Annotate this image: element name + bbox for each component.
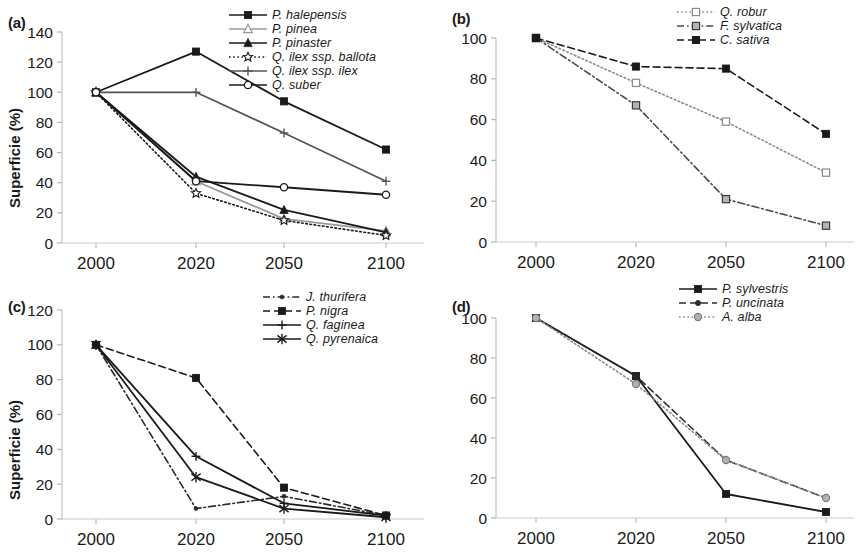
- panel-b-x-tick-2000: 2000: [517, 253, 555, 272]
- panel-d-series-0: [532, 314, 829, 515]
- legend-item-q-suber: Q. suber: [228, 78, 376, 92]
- legend-key-open-triangle: [228, 22, 268, 36]
- legend-key-dot: [262, 290, 302, 304]
- legend-item-q-ilex-ssp-ilex: Q. ilex ssp. ilex: [228, 64, 376, 78]
- panel-a-x-tick-2020: 2020: [177, 254, 215, 273]
- panel-b-x-tick-2020: 2020: [617, 253, 655, 272]
- legend-item-p-pinaster: P. pinaster: [228, 36, 376, 50]
- panel-d-y-tick-40: 40: [470, 430, 488, 447]
- panel-b-x-tick-2100: 2100: [807, 253, 845, 272]
- legend-marker-icon: [678, 296, 718, 310]
- legend-item-f-sylvatica: F. sylvatica: [676, 19, 782, 33]
- panel-c-y-tick-40: 40: [36, 441, 54, 458]
- panel-a-y-tick-80: 80: [36, 114, 54, 131]
- legend-marker-icon: [228, 22, 268, 36]
- panel-a-y-tick-20: 20: [36, 204, 54, 221]
- panel-c-series-0: [94, 343, 388, 518]
- legend-item-a-alba: A. alba: [678, 310, 788, 324]
- legend-item-q-faginea: Q. faginea: [262, 318, 378, 332]
- legend-label: F. sylvatica: [720, 19, 782, 33]
- panel-a-y-axis-title: Superficie (%): [6, 108, 23, 208]
- legend-marker-icon: [678, 310, 718, 324]
- legend-label: P. uncinata: [722, 296, 784, 310]
- panel-a-x-tick-2100: 2100: [367, 254, 405, 273]
- panel-b-series-1: [532, 34, 829, 229]
- legend-item-p-uncinata: P. uncinata: [678, 296, 788, 310]
- legend-item-j-thurifera: J. thurifera: [262, 290, 378, 304]
- panel-b-x-tick-2050: 2050: [707, 253, 745, 272]
- legend-marker-icon: [228, 78, 268, 92]
- legend-key-filled-square: [678, 282, 718, 296]
- panel-a-y-tick-0: 0: [44, 235, 53, 252]
- legend-label: Q. ilex ssp. ballota: [272, 50, 376, 64]
- legend-label: Q. robur: [720, 5, 767, 19]
- panel-c-y-tick-120: 120: [27, 302, 53, 319]
- legend-item-c-sativa: C. sativa: [676, 33, 782, 47]
- legend-marker-icon: [228, 36, 268, 50]
- panel-d-x-tick-2050: 2050: [707, 529, 745, 548]
- legend-marker-icon: [676, 33, 716, 47]
- legend-label: P. halepensis: [272, 8, 347, 22]
- legend-key-filled-triangle: [228, 36, 268, 50]
- legend-label: C. sativa: [720, 33, 770, 47]
- legend-item-p-halepensis: P. halepensis: [228, 8, 376, 22]
- legend-marker-icon: [228, 8, 268, 22]
- panel-d-label: (d): [452, 298, 470, 315]
- panel-b-y-tick-40: 40: [470, 152, 488, 169]
- panel-c-series-3: [91, 340, 390, 523]
- panel-a-y-tick-60: 60: [36, 144, 54, 161]
- panel-b-plot: 0204060801002000202020502100: [440, 0, 862, 280]
- panel-c-x-tick-2050: 2050: [265, 530, 303, 549]
- panel-d-y-tick-80: 80: [470, 350, 488, 367]
- panel-b-y-tick-20: 20: [470, 193, 488, 210]
- legend-item-p-pinea: P. pinea: [228, 22, 376, 36]
- panel-b-legend: Q. roburF. sylvaticaC. sativa: [676, 5, 782, 47]
- panel-c-y-tick-60: 60: [36, 406, 54, 423]
- legend-key-shaded-circle: [678, 310, 718, 324]
- legend-label: A. alba: [722, 310, 762, 324]
- panel-c-x-tick-2020: 2020: [177, 530, 215, 549]
- legend-label: P. pinea: [272, 22, 317, 36]
- panel-b-series-0: [532, 34, 829, 176]
- panel-b-y-tick-100: 100: [461, 30, 487, 47]
- panel-c-y-axis-title: Superficie (%): [6, 400, 23, 500]
- panel-d-plot: 0204060801002000202020502100: [440, 280, 862, 555]
- legend-marker-icon: [676, 19, 716, 33]
- panel-a: (a) Superficie (%) 020406080100120140200…: [0, 0, 440, 280]
- panel-d: (d) 0204060801002000202020502100 P. sylv…: [440, 280, 862, 555]
- legend-marker-icon: [676, 5, 716, 19]
- legend-key-filled-square: [228, 8, 268, 22]
- panel-a-y-tick-40: 40: [36, 174, 54, 191]
- panel-b-y-tick-80: 80: [470, 70, 488, 87]
- panel-b-label: (b): [452, 10, 470, 27]
- panel-b-series-2: [532, 34, 829, 137]
- panel-c-y-tick-100: 100: [27, 336, 53, 353]
- panel-c-label: (c): [8, 298, 25, 315]
- legend-item-p-nigra: P. nigra: [262, 304, 378, 318]
- panel-d-legend: P. sylvestrisP. uncinataA. alba: [678, 282, 788, 324]
- panel-a-y-tick-100: 100: [27, 84, 53, 101]
- panel-d-x-tick-2100: 2100: [807, 529, 845, 548]
- legend-key-cross-bar: [262, 332, 302, 346]
- legend-marker-icon: [262, 318, 302, 332]
- legend-marker-icon: [262, 332, 302, 346]
- legend-key-plus: [262, 318, 302, 332]
- panel-a-y-tick-140: 140: [27, 24, 53, 41]
- legend-label: J. thurifera: [306, 290, 366, 304]
- panel-a-x-tick-2000: 2000: [77, 254, 115, 273]
- panel-c: (c) 0204060801001202000202020502100 J. t…: [0, 280, 440, 555]
- legend-marker-icon: [678, 282, 718, 296]
- panel-a-label: (a): [8, 14, 25, 31]
- legend-marker-icon: [228, 50, 268, 64]
- figure-four-panel-line-charts: (a) Superficie (%) 020406080100120140200…: [0, 0, 862, 555]
- panel-c-y-tick-0: 0: [44, 511, 53, 528]
- panel-b-y-tick-0: 0: [478, 234, 487, 251]
- panel-d-y-tick-20: 20: [470, 470, 488, 487]
- legend-label: Q. pyrenaica: [306, 332, 378, 346]
- panel-a-x-tick-2050: 2050: [265, 254, 303, 273]
- panel-c-x-tick-2100: 2100: [367, 530, 405, 549]
- panel-b: (b) 0204060801002000202020502100 Q. robu…: [440, 0, 862, 280]
- legend-item-q-robur: Q. robur: [676, 5, 782, 19]
- panel-a-series-3: [91, 87, 390, 239]
- legend-key-open-square: [676, 5, 716, 19]
